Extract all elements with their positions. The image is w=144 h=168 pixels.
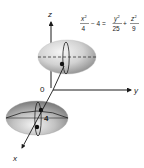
lower-sheet: 4 <box>6 101 68 136</box>
upper-vertex-dot <box>60 62 64 66</box>
eq-y-denominator: 25 <box>113 25 121 32</box>
x-axis-label: x <box>12 154 18 163</box>
lower-vertex-dot-far <box>35 125 39 129</box>
eq-z-exponent: 2 <box>135 14 138 19</box>
eq-x-denominator: 4 <box>82 25 86 32</box>
vertex-distance-label: 4 <box>44 114 49 123</box>
hyperboloid-diagram: z y 0 4 x x 2 4 − 4 = y 2 25 + <box>0 0 144 168</box>
upper-sheet <box>38 40 96 74</box>
eq-minus-four-equals: − 4 = <box>91 20 106 27</box>
z-axis-label: z <box>47 10 52 19</box>
eq-plus: + <box>123 20 127 27</box>
eq-y-exponent: 2 <box>118 14 121 19</box>
eq-x-exponent: 2 <box>85 14 88 19</box>
eq-z-denominator: 9 <box>132 25 136 32</box>
y-axis-label: y <box>133 86 139 95</box>
origin-label: 0 <box>40 85 45 94</box>
equation: x 2 4 − 4 = y 2 25 + z 2 9 <box>80 14 139 33</box>
